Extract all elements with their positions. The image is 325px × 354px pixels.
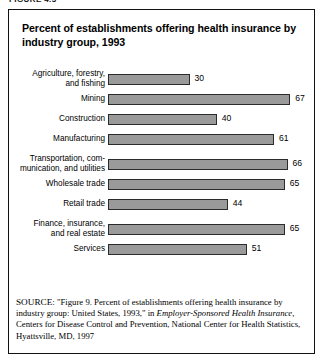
source-publication-title: Employer-Sponsored Health Insurance, [157,308,295,318]
bar-row: Retail trade44 [0,195,325,215]
bar-value-label: 65 [290,223,300,233]
bar [108,179,285,190]
source-label: SOURCE: [16,297,55,307]
bar-track [108,134,274,145]
bar-category-label: Wholesale trade [15,179,105,189]
bar-value-label: 51 [252,243,262,253]
bar-value-label: 30 [195,73,205,83]
bar-track [108,74,190,85]
bar-track [108,244,247,255]
bar-category-label: Services [15,244,105,254]
bar-category-label: Finance, insurance,and real estate [15,219,105,238]
bar-value-label: 40 [222,113,232,123]
bar [108,159,288,170]
bar-row: Manufacturing61 [0,130,325,150]
bar-category-label-line: munication, and utilities [15,164,105,174]
bar-row: Services51 [0,240,325,260]
chart-title: Percent of establishments offering healt… [22,22,297,49]
bar-category-label-line: and fishing [15,79,105,89]
bar-track [108,224,285,235]
bar-category-label-line: and real estate [15,229,105,239]
bar [108,244,247,255]
bar [108,199,228,210]
bar-value-label: 65 [290,178,300,188]
bar [108,94,290,105]
bar-value-label: 61 [279,133,289,143]
bar-category-label: Mining [15,94,105,104]
bar [108,134,274,145]
bar-category-label-line: Finance, insurance, [15,219,105,229]
bar-category-label-line: Transportation, com- [15,154,105,164]
bar-category-label: Construction [15,114,105,124]
bar [108,224,285,235]
bar-row: Agriculture, forestry,and fishing30 [0,70,325,90]
bar-value-label: 66 [293,158,303,168]
bar-track [108,179,285,190]
bar-track [108,159,288,170]
bar-track [108,114,217,125]
bar-row: Wholesale trade65 [0,175,325,195]
bar-row: Mining67 [0,90,325,110]
bar-value-label: 67 [295,93,305,103]
bar [108,114,217,125]
bar-category-label: Agriculture, forestry,and fishing [15,69,105,88]
bar-category-label-line: Agriculture, forestry, [15,69,105,79]
bar [108,74,190,85]
source-note: SOURCE: "Figure 9. Percent of establishm… [16,297,308,342]
bar-value-label: 44 [233,198,243,208]
bar-row: Transportation, com-munication, and util… [0,155,325,175]
bar-category-label: Transportation, com-munication, and util… [15,154,105,173]
figure-caption: FIGURE 4.3 [9,0,57,4]
bar-category-label: Manufacturing [15,134,105,144]
bar-row: Construction40 [0,110,325,130]
bar-track [108,199,228,210]
bar-chart-plot-area: Agriculture, forestry,and fishing30Minin… [0,70,325,290]
bar-track [108,94,290,105]
source-text-part2: Centers for Disease Control and Preventi… [16,319,300,340]
bar-category-label: Retail trade [15,199,105,209]
bar-row: Finance, insurance,and real estate65 [0,220,325,240]
